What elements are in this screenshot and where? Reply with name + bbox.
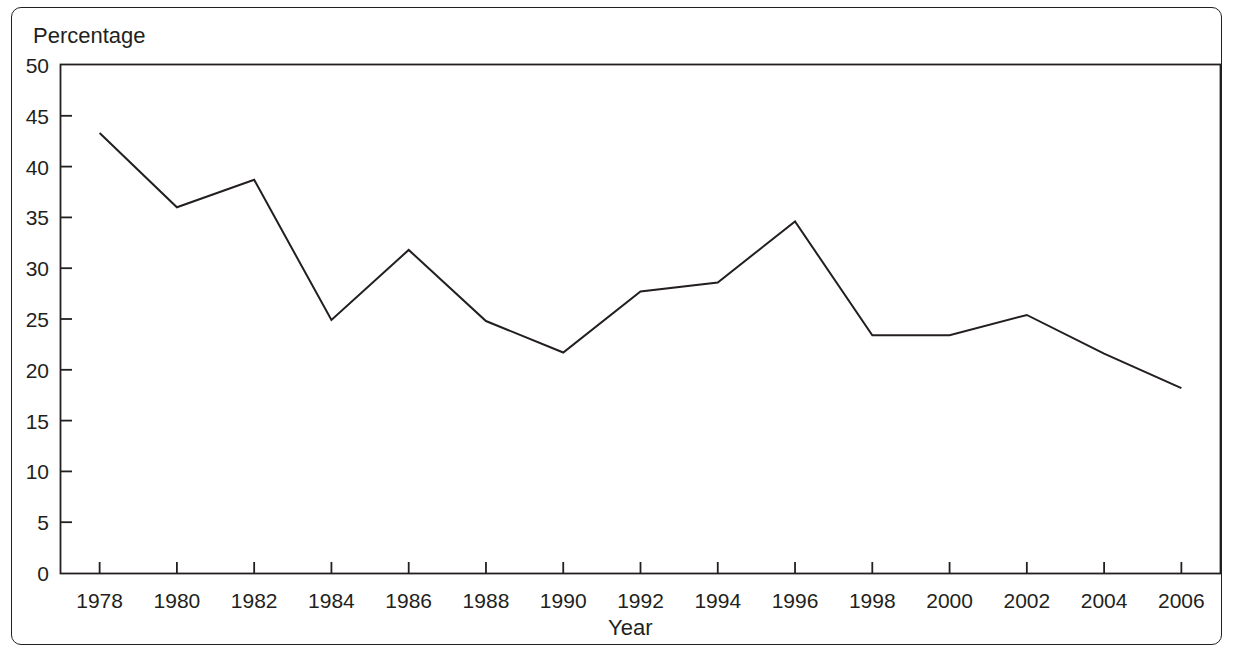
plot-area [0, 0, 1244, 659]
y-tick-label: 25 [0, 309, 49, 330]
y-axis-ticks [61, 116, 72, 522]
y-tick-label: 40 [0, 157, 49, 178]
y-tick-label: 15 [0, 411, 49, 432]
y-tick-label: 20 [0, 360, 49, 381]
chart-figure: Percentage Year 50454035302520151050 197… [0, 0, 1244, 659]
y-tick-label: 10 [0, 461, 49, 482]
y-tick-label: 5 [0, 512, 49, 533]
y-tick-label: 0 [0, 563, 49, 584]
x-tick-label: 2006 [1131, 590, 1231, 611]
y-tick-label: 35 [0, 207, 49, 228]
y-tick-label: 50 [0, 55, 49, 76]
x-axis-ticks [100, 562, 1182, 573]
plot-frame [61, 65, 1221, 574]
data-series-line [100, 133, 1182, 388]
y-tick-label: 30 [0, 258, 49, 279]
y-tick-label: 45 [0, 106, 49, 127]
